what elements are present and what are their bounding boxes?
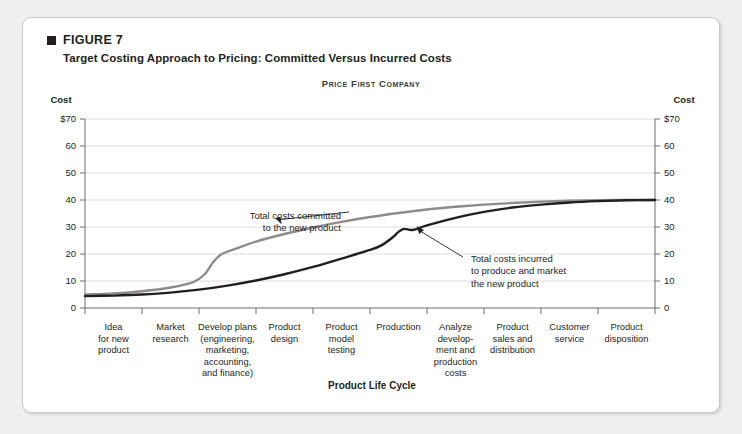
committed-costs-annotation-text: Total costs committed	[250, 210, 341, 221]
x-axis-title: Product Life Cycle	[328, 380, 416, 391]
x-axis-category-label: distribution	[490, 345, 535, 355]
x-axis-category-label: Product	[610, 322, 642, 332]
x-axis-category-label: Idea	[104, 322, 123, 332]
incurred-costs-annotation-text: to produce and market	[471, 265, 566, 276]
figure-card: FIGURE 7 Target Costing Approach to Pric…	[22, 17, 720, 413]
y-axis-right-tick-label: $70	[664, 113, 680, 124]
y-axis-left-tick-label: 20	[65, 248, 76, 259]
cost-curve-chart: 0102030405060$70 0102030405060$70 Ideafo…	[23, 18, 721, 414]
y-axis-left-tick-label: $70	[60, 113, 76, 124]
x-axis-category-label: product	[98, 345, 129, 355]
x-axis-category-labels: Ideafor newproductMarketresearchDevelop …	[98, 322, 648, 378]
y-axis-right-tick-label: 20	[664, 248, 675, 259]
annotations-group: Total costs committedto the new productT…	[250, 210, 567, 289]
series-line-2	[85, 200, 655, 296]
y-axis-left-tick-label: 50	[65, 167, 76, 178]
x-axis-category-label: Product	[325, 322, 357, 332]
x-axis-category-label: design	[271, 334, 298, 344]
y-axis-left-tick-label: 0	[71, 302, 76, 313]
y-axis-left-tick-label: 30	[65, 221, 76, 232]
committed-costs-annotation-text: to the new product	[263, 222, 342, 233]
y-axis-right-tick-label: 0	[664, 302, 669, 313]
y-axis-left-tick-label: 60	[65, 140, 76, 151]
x-axis-category-label: and finance)	[202, 368, 253, 378]
y-axis-right-tick-label: 40	[664, 194, 675, 205]
x-axis-category-label: accounting,	[204, 357, 252, 367]
y-axis-left-tick-label: 40	[65, 194, 76, 205]
y-axis-right-tick-label: 60	[664, 140, 675, 151]
x-axis-category-label: sales and	[493, 334, 533, 344]
data-series-group	[85, 200, 655, 296]
series-line-1	[85, 200, 655, 295]
x-axis-category-label: Market	[156, 322, 185, 332]
y-axis-right-labels: 0102030405060$70	[664, 113, 680, 313]
x-axis-category-label: production	[434, 357, 477, 367]
x-axis-category-label: model	[329, 334, 354, 344]
x-axis-category-label: develop-	[438, 334, 474, 344]
x-axis-category-label: (engineering,	[200, 334, 254, 344]
x-axis-category-label: Analyze	[439, 322, 472, 332]
y-axis-right-tick-label: 50	[664, 167, 675, 178]
y-axis-left-labels: 0102030405060$70	[60, 113, 76, 313]
gridlines-group	[85, 119, 655, 308]
x-axis-category-label: service	[555, 334, 584, 344]
y-axis-right-title: Cost	[673, 94, 695, 105]
y-axis-left-title: Cost	[50, 94, 72, 105]
x-axis-category-label: Develop plans	[198, 322, 257, 332]
incurred-costs-annotation-text: Total costs incurred	[471, 253, 553, 264]
x-axis-category-label: Product	[268, 322, 300, 332]
x-axis-category-label: Production	[376, 322, 420, 332]
x-axis-category-label: research	[152, 334, 188, 344]
x-axis-category-label: marketing,	[206, 345, 249, 355]
x-axis-category-label: disposition	[605, 334, 649, 344]
incurred-costs-annotation-text: the new product	[471, 278, 539, 289]
x-axis-category-label: Customer	[549, 322, 589, 332]
x-axis-category-label: testing	[328, 345, 355, 355]
y-axis-left-tick-label: 10	[65, 275, 76, 286]
x-axis-category-label: for new	[98, 334, 129, 344]
y-axis-right-tick-label: 10	[664, 275, 675, 286]
x-axis-category-label: ment and	[436, 345, 475, 355]
x-axis-category-label: Product	[496, 322, 528, 332]
x-axis-category-label: costs	[445, 368, 467, 378]
y-axis-right-tick-label: 30	[664, 221, 675, 232]
incurred-costs-leader-line	[421, 231, 463, 257]
